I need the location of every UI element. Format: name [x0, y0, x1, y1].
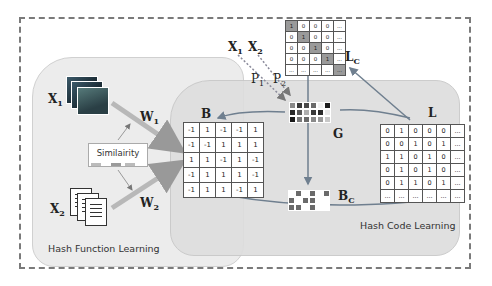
- hash-code-learning-caption: Hash Code Learning: [360, 220, 456, 231]
- matrix-cell: 0: [286, 43, 298, 54]
- l-label: L: [428, 106, 436, 120]
- matrix-cell: 1: [216, 138, 232, 153]
- p1-label: P1: [251, 72, 264, 88]
- matrix-cell: 0: [409, 164, 423, 177]
- matrix-cell: 1: [437, 177, 451, 190]
- matrix-cell: ...: [334, 21, 346, 32]
- g-cell: [324, 116, 331, 123]
- matrix-cell: 1: [395, 164, 409, 177]
- matrix-cell: 0: [395, 138, 409, 151]
- matrix-cell: ...: [286, 65, 298, 76]
- matrix-cell: 0: [437, 125, 451, 138]
- matrix-cell: 0: [310, 54, 322, 65]
- matrix-cell: 0: [298, 54, 310, 65]
- bc-cell: [323, 204, 330, 211]
- bc-cell: [323, 197, 330, 204]
- matrix-cell: ...: [451, 138, 465, 151]
- matrix-cell: 1: [395, 151, 409, 164]
- lc-matrix: 1000...0100...0010...0001...............…: [285, 20, 346, 76]
- matrix-cell: ...: [451, 164, 465, 177]
- matrix-cell: 0: [381, 164, 395, 177]
- bc-cell: [309, 190, 316, 197]
- matrix-cell: -1: [248, 153, 264, 168]
- matrix-cell: 0: [381, 177, 395, 190]
- matrix-cell: -1: [184, 138, 200, 153]
- matrix-cell: -1: [248, 168, 264, 183]
- matrix-cell: 0: [381, 138, 395, 151]
- hash-function-learning-caption: Hash Function Learning: [48, 243, 160, 254]
- matrix-cell: 1: [248, 138, 264, 153]
- matrix-cell: 1: [409, 177, 423, 190]
- matrix-cell: 1: [232, 138, 248, 153]
- x1-label: X1: [48, 92, 63, 108]
- matrix-cell: ...: [423, 190, 437, 203]
- matrix-cell: 1: [423, 151, 437, 164]
- matrix-cell: ...: [381, 190, 395, 203]
- g-cell: [310, 109, 317, 116]
- matrix-cell: 0: [310, 32, 322, 43]
- bc-cell: [323, 190, 330, 197]
- g-cell: [289, 102, 296, 109]
- matrix-cell: 1: [200, 168, 216, 183]
- matrix-cell: -1: [184, 183, 200, 198]
- matrix-cell: 1: [437, 138, 451, 151]
- matrix-cell: ...: [451, 177, 465, 190]
- matrix-cell: ...: [334, 32, 346, 43]
- g-cell: [317, 109, 324, 116]
- g-label: G: [333, 127, 343, 141]
- matrix-cell: -1: [184, 168, 200, 183]
- bc-cell: [309, 204, 316, 211]
- bc-cell: [309, 197, 316, 204]
- matrix-cell: 1: [310, 43, 322, 54]
- bc-cell: [295, 204, 302, 211]
- bc-label: BC: [338, 189, 355, 205]
- matrix-cell: 0: [322, 21, 334, 32]
- matrix-cell: 1: [200, 153, 216, 168]
- bc-cell: [295, 197, 302, 204]
- x2-label: X2: [50, 202, 65, 218]
- matrix-cell: -1: [232, 123, 248, 138]
- g-cell: [296, 116, 303, 123]
- matrix-cell: ...: [451, 125, 465, 138]
- matrix-cell: 1: [298, 32, 310, 43]
- matrix-cell: 0: [381, 125, 395, 138]
- matrix-cell: 1: [248, 183, 264, 198]
- w2-label: W2: [140, 196, 159, 212]
- lc-label: LC: [345, 50, 360, 66]
- matrix-cell: 0: [286, 54, 298, 65]
- matrix-cell: 1: [216, 168, 232, 183]
- bc-cell: [295, 190, 302, 197]
- g-matrix: [289, 102, 331, 123]
- matrix-cell: ...: [310, 65, 322, 76]
- matrix-cell: 1: [409, 138, 423, 151]
- matrix-cell: 0: [298, 21, 310, 32]
- g-cell: [310, 116, 317, 123]
- matrix-cell: 1: [200, 123, 216, 138]
- matrix-cell: 0: [310, 21, 322, 32]
- matrix-cell: -1: [232, 183, 248, 198]
- matrix-cell: 1: [184, 153, 200, 168]
- bc-cell: [316, 190, 323, 197]
- top-x1-label: X1: [228, 40, 243, 56]
- matrix-cell: ...: [298, 65, 310, 76]
- g-cell: [310, 102, 317, 109]
- matrix-cell: 0: [298, 43, 310, 54]
- g-cell: [296, 102, 303, 109]
- matrix-cell: ...: [395, 190, 409, 203]
- matrix-cell: 1: [395, 177, 409, 190]
- matrix-cell: 1: [200, 183, 216, 198]
- matrix-cell: 0: [409, 151, 423, 164]
- matrix-cell: ...: [409, 190, 423, 203]
- matrix-cell: 1: [423, 164, 437, 177]
- bc-cell: [302, 197, 309, 204]
- matrix-cell: -1: [200, 138, 216, 153]
- matrix-cell: -1: [184, 123, 200, 138]
- w1-label: W1: [140, 110, 159, 126]
- matrix-cell: 0: [286, 32, 298, 43]
- g-cell: [317, 116, 324, 123]
- g-cell: [324, 109, 331, 116]
- g-cell: [289, 109, 296, 116]
- matrix-cell: 0: [423, 138, 437, 151]
- bc-matrix: [288, 190, 330, 211]
- matrix-cell: 0: [322, 32, 334, 43]
